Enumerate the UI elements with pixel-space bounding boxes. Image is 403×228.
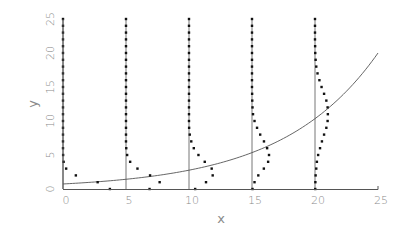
data-point	[251, 59, 253, 61]
x-axis: 0510152025 x	[63, 186, 389, 226]
data-point	[188, 79, 190, 81]
data-point	[204, 161, 206, 163]
data-point	[251, 86, 253, 88]
data-point	[326, 120, 328, 122]
data-point	[188, 18, 190, 20]
data-point	[188, 52, 190, 54]
x-tick-label: 0	[63, 194, 70, 207]
y-tick-labels: 0510152025	[44, 12, 57, 193]
data-point	[267, 161, 269, 163]
y-axis-label: y	[25, 100, 40, 108]
data-point	[314, 59, 316, 61]
data-points	[62, 18, 329, 190]
data-point	[188, 59, 190, 61]
data-point	[263, 167, 265, 169]
data-point	[251, 38, 253, 40]
data-point	[197, 154, 199, 156]
data-point	[188, 86, 190, 88]
data-point	[256, 127, 258, 129]
data-point	[188, 25, 190, 27]
data-point	[314, 45, 316, 47]
data-point	[251, 18, 253, 20]
data-point	[193, 147, 195, 149]
data-point	[316, 161, 318, 163]
data-point	[125, 133, 127, 135]
data-point	[188, 127, 190, 129]
data-point	[314, 174, 316, 176]
data-point	[189, 133, 191, 135]
data-point	[319, 147, 321, 149]
data-point	[251, 25, 253, 27]
y-axis: 0510152025 y	[25, 12, 63, 193]
mean-curve	[63, 53, 378, 184]
data-point	[251, 65, 253, 67]
data-point	[205, 181, 207, 183]
data-point	[125, 127, 127, 129]
data-point	[268, 154, 270, 156]
data-point	[158, 181, 160, 183]
data-point	[325, 127, 327, 129]
x-tick-labels: 0510152025	[63, 194, 389, 207]
data-point	[125, 113, 127, 115]
data-point	[327, 113, 329, 115]
data-point	[188, 120, 190, 122]
y-tick-label: 0	[44, 186, 57, 193]
x-tick-label: 15	[248, 194, 262, 207]
data-point	[314, 38, 316, 40]
data-point	[125, 93, 127, 95]
data-point	[251, 99, 253, 101]
data-point	[318, 79, 320, 81]
data-point	[315, 167, 317, 169]
data-point	[210, 167, 212, 169]
data-point	[188, 31, 190, 33]
data-point	[188, 38, 190, 40]
data-point	[125, 31, 127, 33]
x-tick-label: 25	[374, 194, 388, 207]
data-point	[188, 99, 190, 101]
data-point	[315, 65, 317, 67]
data-point	[125, 59, 127, 61]
data-point	[126, 154, 128, 156]
plot-area	[62, 18, 378, 190]
data-point	[129, 161, 131, 163]
data-point	[325, 99, 327, 101]
data-point	[321, 140, 323, 142]
y-tick-label: 5	[44, 152, 57, 159]
y-tick-label: 10	[44, 114, 57, 128]
data-point	[65, 167, 67, 169]
data-point	[125, 38, 127, 40]
data-point	[251, 52, 253, 54]
data-point	[259, 133, 261, 135]
data-point	[251, 93, 253, 95]
data-point	[251, 45, 253, 47]
data-point	[125, 79, 127, 81]
data-point	[320, 86, 322, 88]
data-point	[317, 154, 319, 156]
data-point	[125, 45, 127, 47]
data-point	[96, 181, 98, 183]
x-tick-label: 10	[185, 194, 199, 207]
data-point	[316, 72, 318, 74]
data-point	[125, 86, 127, 88]
data-point	[253, 120, 255, 122]
data-point	[136, 167, 138, 169]
data-point	[251, 106, 253, 108]
data-point	[314, 31, 316, 33]
data-point	[75, 174, 77, 176]
y-tick-label: 15	[44, 80, 57, 94]
data-point	[252, 113, 254, 115]
data-point	[188, 45, 190, 47]
data-point	[125, 52, 127, 54]
data-point	[314, 25, 316, 27]
data-point	[188, 65, 190, 67]
data-point	[188, 93, 190, 95]
data-point	[125, 99, 127, 101]
data-point	[314, 52, 316, 54]
data-point	[326, 106, 328, 108]
y-tick-label: 25	[44, 12, 57, 26]
data-point	[263, 140, 265, 142]
data-point	[314, 181, 316, 183]
data-point	[125, 120, 127, 122]
data-point	[314, 18, 316, 20]
data-point	[323, 93, 325, 95]
